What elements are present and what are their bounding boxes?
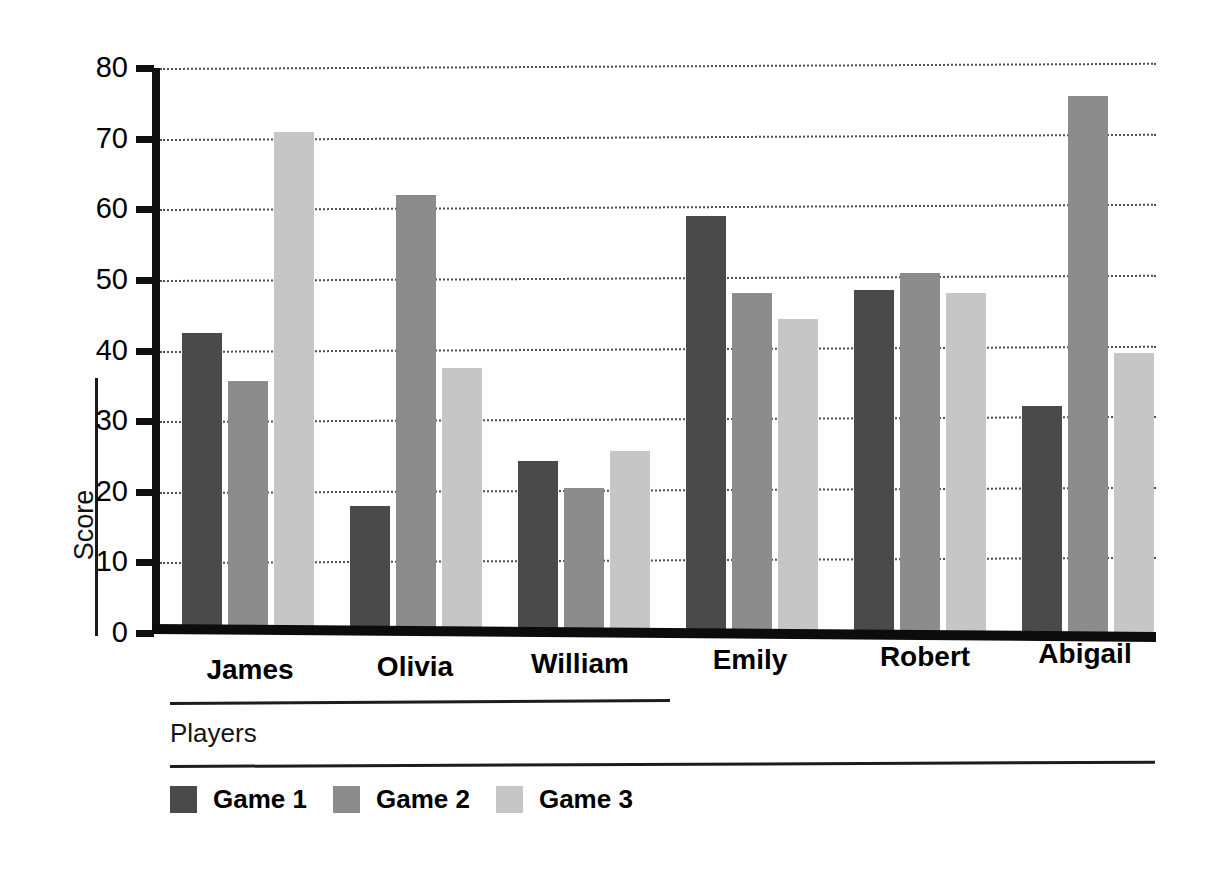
y-axis-tick-mark [136, 559, 154, 566]
bar-chart-figure: Score 01020304050607080 JamesOliviaWilli… [0, 0, 1213, 875]
y-axis-tick-label: 60 [68, 194, 128, 223]
legend-label: Game 3 [539, 786, 633, 813]
chart-legend: Game 1Game 2Game 3 [170, 786, 659, 813]
bar-group [160, 68, 326, 633]
y-axis-tick-label: 30 [68, 406, 128, 435]
bar[interactable] [518, 461, 558, 633]
y-axis-title-container: Score [64, 435, 104, 615]
bar[interactable] [350, 506, 390, 633]
y-axis-tick-label: 40 [68, 336, 128, 365]
x-axis-category-label: William [490, 648, 670, 680]
y-axis-tick-label: 50 [68, 265, 128, 294]
bar[interactable] [182, 333, 222, 633]
bar-group [326, 68, 492, 633]
y-axis-tick-mark [136, 489, 154, 496]
bar[interactable] [274, 132, 314, 633]
bar[interactable] [228, 381, 268, 633]
bar[interactable] [610, 451, 650, 633]
bar[interactable] [854, 290, 894, 633]
y-axis-tick-mark [136, 136, 154, 143]
legend-swatch-icon [170, 786, 197, 813]
bar[interactable] [442, 368, 482, 633]
y-axis-tick-label: 70 [68, 124, 128, 153]
x-axis-category-label: Robert [835, 641, 1015, 673]
bar-group [824, 68, 990, 633]
x-axis-title-rule [170, 699, 670, 705]
y-axis-tick-mark [136, 206, 154, 213]
y-axis-tick-label: 80 [68, 53, 128, 82]
legend-swatch-icon [333, 786, 360, 813]
bar-group [658, 68, 824, 633]
legend-item[interactable]: Game 1 [170, 786, 307, 813]
legend-label: Game 2 [376, 786, 470, 813]
x-axis-category-label: James [160, 654, 340, 686]
legend-item[interactable]: Game 2 [333, 786, 470, 813]
bar[interactable] [1114, 353, 1154, 633]
y-axis-tick-mark [136, 348, 154, 355]
y-axis-title: Score [64, 435, 104, 615]
x-axis-category-label: Olivia [325, 651, 505, 683]
y-axis-tick-mark [136, 277, 154, 284]
y-axis-tick-mark [136, 418, 154, 425]
bar[interactable] [778, 319, 818, 633]
bar[interactable] [396, 195, 436, 633]
bar[interactable] [1068, 96, 1108, 633]
bar-group [492, 68, 658, 633]
bar[interactable] [1022, 406, 1062, 633]
y-axis-tick-label: 20 [68, 477, 128, 506]
y-axis-tick-label: 10 [68, 547, 128, 576]
x-axis-category-label: Abigail [995, 638, 1175, 670]
legend-item[interactable]: Game 3 [496, 786, 633, 813]
legend-separator-rule [170, 761, 1155, 768]
bar[interactable] [686, 216, 726, 633]
bar[interactable] [900, 273, 940, 633]
bar[interactable] [946, 293, 986, 633]
legend-swatch-icon [496, 786, 523, 813]
bar-group [990, 68, 1156, 633]
bar[interactable] [564, 488, 604, 633]
y-axis-tick-mark [136, 65, 154, 72]
x-axis-title: Players [170, 718, 257, 748]
legend-label: Game 1 [213, 786, 307, 813]
bar[interactable] [732, 293, 772, 633]
x-axis-category-label: Emily [660, 644, 840, 676]
y-axis-tick-label: 0 [68, 618, 128, 647]
plot-area [160, 68, 1156, 633]
